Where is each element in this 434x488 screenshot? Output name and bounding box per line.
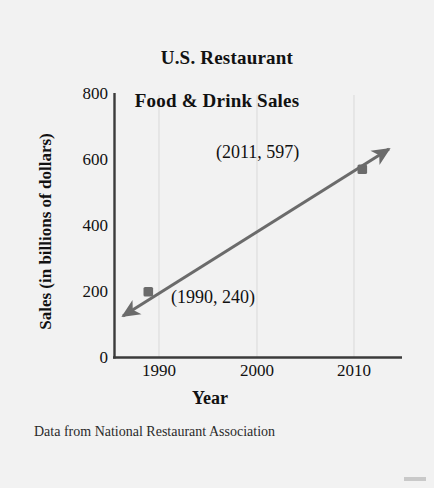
x-tick-2000: 2000 [222,361,292,380]
y-tick-600: 600 [0,150,108,169]
x-tick-1990: 1990 [124,361,194,380]
chart-figure: U.S. Restaurant Food & Drink Sales Sales… [0,0,434,488]
y-tick-200: 200 [0,282,108,301]
y-tick-0: 0 [0,348,108,367]
data-point-2011 [358,165,368,175]
title-line-1: U.S. Restaurant [161,47,293,68]
annotation-1990: (1990, 240) [171,287,255,307]
source-note: Data from National Restaurant Associatio… [34,424,275,440]
x-axis-label: Year [150,388,270,408]
annotation-2011: (2011, 597) [216,142,299,162]
corner-artifact [404,477,426,481]
y-tick-800: 800 [0,84,108,103]
trend-line [123,149,389,316]
y-tick-400: 400 [0,216,108,235]
x-tick-2010: 2010 [319,361,389,380]
data-point-1990 [144,287,154,297]
